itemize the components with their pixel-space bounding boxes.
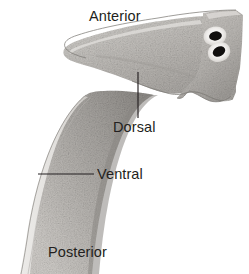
flatworm-illustration	[0, 0, 249, 274]
label-dorsal: Dorsal	[113, 120, 156, 135]
flatworm-orientation-diagram: Anterior Dorsal Ventral Posterior	[0, 0, 249, 274]
label-ventral: Ventral	[97, 167, 143, 182]
label-anterior: Anterior	[89, 9, 141, 24]
label-posterior: Posterior	[48, 245, 107, 260]
